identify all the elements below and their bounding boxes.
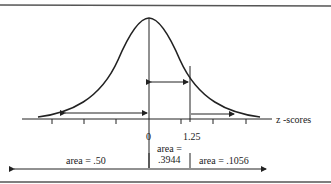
axis-label: z -scores — [276, 114, 311, 125]
left-area-label: area = .50 — [66, 155, 106, 166]
tick-label-0: 0 — [146, 131, 151, 142]
middle-area-label-2: .3944 — [158, 154, 181, 165]
middle-area-label-1: area = — [157, 143, 182, 154]
tick-label-125: 1.25 — [183, 131, 201, 142]
right-area-label: area = .1056 — [199, 155, 249, 166]
top-rule — [0, 5, 331, 6]
normal-curve-diagram: z -scores 0 1.25 area = .50 area = .3944… — [0, 0, 331, 184]
